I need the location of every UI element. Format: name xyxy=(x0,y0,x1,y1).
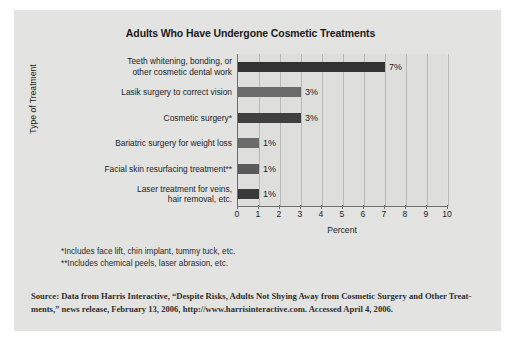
category-label-line: Lasik surgery to correct vision xyxy=(52,87,232,98)
y-axis-title: Type of Treatment xyxy=(28,54,38,144)
bar xyxy=(238,87,301,97)
category-label-line: hair removal, etc. xyxy=(52,194,232,205)
gridline-8 xyxy=(406,54,407,206)
bar-value-label: 1% xyxy=(263,189,276,199)
bar-value-label: 3% xyxy=(305,113,318,123)
x-tick-label-1: 1 xyxy=(248,209,268,219)
footnotes: *Includes face lift, chin implant, tummy… xyxy=(61,246,235,270)
bar xyxy=(238,164,259,174)
category-label-line: Bariatric surgery for weight loss xyxy=(52,138,232,149)
bar-row: 3% xyxy=(238,80,318,106)
bar xyxy=(238,189,259,199)
bar-row: 1% xyxy=(238,131,276,157)
category-label: Teeth whitening, bonding, orother cosmet… xyxy=(52,56,232,77)
category-label-line: other cosmetic dental work xyxy=(52,67,232,78)
x-tick-label-0: 0 xyxy=(227,209,247,219)
x-tick-label-10: 10 xyxy=(437,209,457,219)
bar-value-label: 1% xyxy=(263,138,276,148)
x-tick-label-4: 4 xyxy=(311,209,331,219)
bar-value-label: 7% xyxy=(389,62,402,72)
bar-value-label: 1% xyxy=(263,164,276,174)
bar xyxy=(238,62,385,72)
category-labels: Teeth whitening, bonding, orother cosmet… xyxy=(52,54,237,207)
category-label-line: Teeth whitening, bonding, or xyxy=(52,56,232,67)
chart-screenshot: Adults Who Have Undergone Cosmetic Treat… xyxy=(0,0,516,346)
category-label: Cosmetic surgery* xyxy=(52,113,232,124)
bar-row: 1% xyxy=(238,182,276,208)
bar-row: 7% xyxy=(238,54,402,80)
x-tick-label-2: 2 xyxy=(269,209,289,219)
category-label: Laser treatment for veins,hair removal, … xyxy=(52,184,232,205)
x-tick-label-9: 9 xyxy=(416,209,436,219)
category-label: Bariatric surgery for weight loss xyxy=(52,138,232,149)
bar xyxy=(238,113,301,123)
category-label-line: Cosmetic surgery* xyxy=(52,113,232,124)
x-tick-label-5: 5 xyxy=(332,209,352,219)
source-line-1: Source: Data from Harris Interactive, “D… xyxy=(31,290,491,303)
plot-area: 7%3%3%1%1%1% xyxy=(237,54,447,207)
category-label-line: Laser treatment for veins, xyxy=(52,184,232,195)
bar-value-label: 3% xyxy=(305,87,318,97)
x-axis-title: Percent xyxy=(237,225,447,235)
footnote-2: **Includes chemical peels, laser abrasio… xyxy=(61,258,235,270)
x-tick-label-8: 8 xyxy=(395,209,415,219)
bar-row: 3% xyxy=(238,105,318,131)
gridline-10 xyxy=(448,54,449,206)
x-tick-label-3: 3 xyxy=(290,209,310,219)
category-label: Facial skin resurfacing treatment** xyxy=(52,164,232,175)
plot-wrapper: Type of Treatment Teeth whitening, bondi… xyxy=(14,10,501,260)
bar-row: 1% xyxy=(238,156,276,182)
x-tick-label-7: 7 xyxy=(374,209,394,219)
x-axis-ticks: 012345678910 xyxy=(237,209,447,223)
chart-card: Adults Who Have Undergone Cosmetic Treat… xyxy=(14,10,501,331)
category-label: Lasik surgery to correct vision xyxy=(52,87,232,98)
gridline-9 xyxy=(427,54,428,206)
footnote-1: *Includes face lift, chin implant, tummy… xyxy=(61,246,235,258)
source-citation: Source: Data from Harris Interactive, “D… xyxy=(31,290,491,315)
source-line-2: ments,” news release, February 13, 2006,… xyxy=(31,303,491,316)
category-label-line: Facial skin resurfacing treatment** xyxy=(52,164,232,175)
bar xyxy=(238,138,259,148)
x-tick-label-6: 6 xyxy=(353,209,373,219)
